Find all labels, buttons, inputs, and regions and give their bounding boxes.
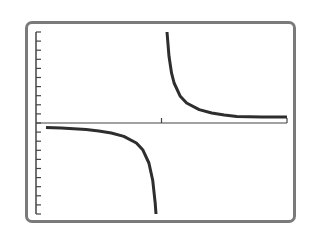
graph-plot xyxy=(0,0,317,227)
right-branch-curve xyxy=(167,32,287,117)
axes xyxy=(36,32,287,214)
left-branch-curve xyxy=(46,127,156,214)
